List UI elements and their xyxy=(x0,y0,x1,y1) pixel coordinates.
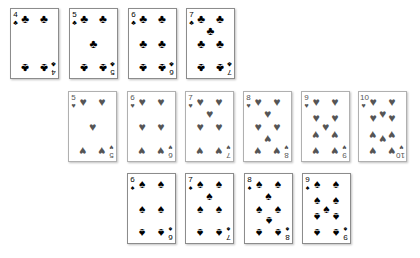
rank-label: 5 xyxy=(109,68,116,76)
card-7-of-hearts[interactable]: 7♥7♥♥♥♥♥♥♥♥ xyxy=(185,91,234,162)
hearts-icon: ♥ xyxy=(367,112,379,124)
spades-icon: ♠ xyxy=(204,190,216,202)
card-5-of-hearts[interactable]: 5♥5♥♥♥♥♥♥ xyxy=(68,91,117,162)
spades-icon: ♠ xyxy=(187,184,194,191)
hearts-icon: ♥ xyxy=(213,145,225,157)
card-5-of-clubs[interactable]: 5♣5♣♣♣♣♣♣ xyxy=(69,8,118,79)
rank-label: 8 xyxy=(245,94,252,102)
card-index-tl: 10♥ xyxy=(360,94,367,109)
card-index-tl: 7♣ xyxy=(188,11,195,26)
hearts-icon: ♥ xyxy=(310,145,322,157)
clubs-icon: ♣ xyxy=(88,38,100,50)
hearts-icon: ♥ xyxy=(70,102,77,109)
spades-icon: ♠ xyxy=(136,227,148,239)
clubs-icon: ♣ xyxy=(50,61,57,68)
spades-icon: ♠ xyxy=(272,178,284,190)
card-index-br: 7♥ xyxy=(225,144,232,159)
card-10-of-hearts[interactable]: 10♥10♥♥♥♥♥♥♥♥♥♥♥ xyxy=(358,91,407,162)
card-9-of-spades[interactable]: 9♠9♠♠♠♠♠♠♠♠♠♠ xyxy=(302,173,351,244)
rank-label: 10 xyxy=(360,94,367,102)
spades-icon: ♠ xyxy=(194,178,206,190)
spades-icon: ♠ xyxy=(129,184,136,191)
card-index-br: 8♥ xyxy=(283,144,290,159)
rank-label: 8 xyxy=(283,151,290,159)
spades-icon: ♠ xyxy=(155,203,167,215)
hearts-icon: ♥ xyxy=(155,145,167,157)
card-index-tl: 6♣ xyxy=(130,11,137,26)
rank-label: 10 xyxy=(398,151,405,159)
hearts-icon: ♥ xyxy=(329,129,341,141)
clubs-icon: ♣ xyxy=(195,62,207,74)
card-index-tl: 5♥ xyxy=(70,94,77,109)
clubs-icon: ♣ xyxy=(168,61,175,68)
hearts-icon: ♥ xyxy=(96,145,108,157)
spades-icon: ♠ xyxy=(246,184,253,191)
rank-label: 8 xyxy=(246,176,253,184)
spades-icon: ♠ xyxy=(136,178,148,190)
spades-icon: ♠ xyxy=(155,178,167,190)
clubs-icon: ♣ xyxy=(226,61,233,68)
hearts-icon: ♥ xyxy=(213,96,225,108)
spades-icon: ♠ xyxy=(263,190,275,202)
card-7-of-spades[interactable]: 7♠7♠♠♠♠♠♠♠♠ xyxy=(185,173,234,244)
clubs-icon: ♣ xyxy=(38,13,50,25)
clubs-icon: ♣ xyxy=(12,19,19,26)
rank-label: 7 xyxy=(225,233,232,241)
rank-label: 9 xyxy=(342,233,349,241)
hearts-icon: ♥ xyxy=(283,144,290,151)
spades-icon: ♠ xyxy=(213,203,225,215)
clubs-icon: ♣ xyxy=(78,62,90,74)
card-6-of-clubs[interactable]: 6♣6♣♣♣♣♣♣♣ xyxy=(128,8,177,79)
hearts-icon: ♥ xyxy=(252,145,264,157)
hearts-icon: ♥ xyxy=(262,108,274,120)
spades-icon: ♠ xyxy=(167,226,174,233)
hearts-icon: ♥ xyxy=(204,108,216,120)
card-6-of-hearts[interactable]: 6♥6♥♥♥♥♥♥♥ xyxy=(127,91,176,162)
card-8-of-hearts[interactable]: 8♥8♥♥♥♥♥♥♥♥♥ xyxy=(243,91,292,162)
hearts-icon: ♥ xyxy=(96,96,108,108)
card-index-br: 7♠ xyxy=(225,226,232,241)
spades-icon: ♠ xyxy=(272,203,284,215)
spades-icon: ♠ xyxy=(253,178,265,190)
card-8-of-spades[interactable]: 8♠8♠♠♠♠♠♠♠♠♠ xyxy=(244,173,293,244)
card-index-br: 5♥ xyxy=(108,144,115,159)
clubs-icon: ♣ xyxy=(78,13,90,25)
hearts-icon: ♥ xyxy=(187,102,194,109)
hearts-icon: ♥ xyxy=(360,102,367,109)
spades-icon: ♠ xyxy=(330,178,342,190)
hearts-icon: ♥ xyxy=(213,121,225,133)
hearts-icon: ♥ xyxy=(310,129,322,141)
rank-label: 7 xyxy=(187,176,194,184)
rank-label: 7 xyxy=(226,68,233,76)
rank-label: 4 xyxy=(50,68,57,76)
clubs-icon: ♣ xyxy=(195,13,207,25)
hearts-icon: ♥ xyxy=(77,145,89,157)
card-6-of-spades[interactable]: 6♠6♠♠♠♠♠♠♠ xyxy=(127,173,176,244)
rank-label: 6 xyxy=(129,176,136,184)
spades-icon: ♠ xyxy=(311,178,323,190)
card-9-of-hearts[interactable]: 9♥9♥♥♥♥♥♥♥♥♥♥ xyxy=(301,91,350,162)
card-7-of-clubs[interactable]: 7♣7♣♣♣♣♣♣♣♣ xyxy=(186,8,235,79)
hearts-icon: ♥ xyxy=(77,96,89,108)
card-index-tl: 9♥ xyxy=(303,94,310,109)
clubs-icon: ♣ xyxy=(156,13,168,25)
hearts-icon: ♥ xyxy=(167,144,174,151)
clubs-icon: ♣ xyxy=(137,13,149,25)
spades-icon: ♠ xyxy=(272,227,284,239)
hearts-icon: ♥ xyxy=(310,96,322,108)
rank-label: 8 xyxy=(284,233,291,241)
hearts-icon: ♥ xyxy=(377,133,389,145)
card-index-br: 6♥ xyxy=(167,144,174,159)
rank-label: 9 xyxy=(303,94,310,102)
clubs-icon: ♣ xyxy=(137,62,149,74)
hearts-icon: ♥ xyxy=(129,102,136,109)
spades-icon: ♠ xyxy=(213,227,225,239)
card-index-tl: 7♠ xyxy=(187,176,194,191)
spades-icon: ♠ xyxy=(136,203,148,215)
spades-icon: ♠ xyxy=(253,203,265,215)
card-4-of-clubs[interactable]: 4♣4♣♣♣♣♣ xyxy=(10,8,59,79)
hearts-icon: ♥ xyxy=(386,96,398,108)
hearts-icon: ♥ xyxy=(252,121,264,133)
hearts-icon: ♥ xyxy=(194,96,206,108)
card-index-tl: 6♠ xyxy=(129,176,136,191)
